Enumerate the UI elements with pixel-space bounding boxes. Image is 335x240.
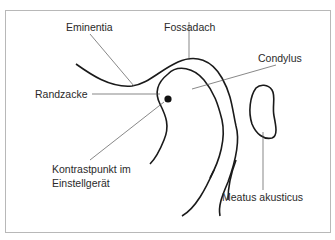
label-condylus: Condylus xyxy=(258,52,302,65)
leader-eminentia xyxy=(90,34,134,86)
meatus-outline xyxy=(250,85,276,138)
label-kontrastpunkt-line1: Kontrastpunkt im xyxy=(52,163,131,176)
condylus-outline xyxy=(150,68,223,178)
label-meatus: Meatus akusticus xyxy=(222,191,303,204)
label-randzacke: Randzacke xyxy=(35,88,88,101)
kontrastpunkt-dot xyxy=(164,95,171,102)
fossa-outline xyxy=(76,59,238,216)
label-kontrastpunkt-line2: Einstellgerät xyxy=(52,177,110,190)
leader-kontrastpunkt xyxy=(90,102,164,160)
condylus-neck-left xyxy=(182,170,214,216)
label-fossadach: Fossadach xyxy=(164,21,215,34)
label-eminentia: Eminentia xyxy=(66,21,113,34)
